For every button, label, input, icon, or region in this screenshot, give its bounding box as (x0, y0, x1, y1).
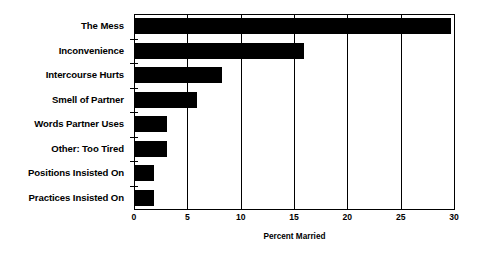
y-axis-label-positions-insisted-on: Positions Insisted On (0, 161, 130, 186)
y-axis-label-the-mess: The Mess (0, 14, 130, 39)
x-tick-label-0: 0 (132, 213, 137, 222)
y-axis-label-practices-insisted-on: Practices Insisted On (0, 186, 130, 211)
y-axis-label-other-too-tired: Other: Too Tired (0, 137, 130, 162)
y-axis-label-words-partner-uses: Words Partner Uses (0, 112, 130, 137)
x-tick-label-15: 15 (289, 213, 299, 222)
bar-slot (135, 39, 455, 64)
bar (135, 67, 222, 83)
bar (135, 190, 154, 206)
plot-area (134, 14, 455, 210)
bar (135, 92, 197, 108)
bar (135, 165, 154, 181)
x-tick-label-25: 25 (396, 213, 406, 222)
x-tick-label-5: 5 (185, 213, 190, 222)
y-axis-category-labels: The Mess Inconvenience Intercourse Hurts… (0, 14, 130, 210)
y-axis-label-smell-of-partner: Smell of Partner (0, 88, 130, 113)
x-tick-label-30: 30 (449, 213, 459, 222)
x-tick-label-10: 10 (236, 213, 246, 222)
bar-slot (135, 14, 455, 39)
y-axis-label-inconvenience: Inconvenience (0, 39, 130, 64)
bar-chart-figure: The Mess Inconvenience Intercourse Hurts… (0, 0, 480, 259)
x-axis-tick-labels: 051015202530 (134, 213, 455, 227)
bar-slot (135, 63, 455, 88)
bar (135, 43, 304, 59)
bar-slot (135, 137, 455, 162)
bar-series (135, 14, 455, 210)
bar (135, 18, 451, 34)
bar-slot (135, 112, 455, 137)
x-tick-label-20: 20 (343, 213, 353, 222)
bar-slot (135, 186, 455, 211)
bar-slot (135, 88, 455, 113)
bar-slot (135, 161, 455, 186)
y-axis-label-intercourse-hurts: Intercourse Hurts (0, 63, 130, 88)
bar (135, 116, 167, 132)
x-axis-title: Percent Married (134, 233, 455, 241)
bar (135, 141, 167, 157)
